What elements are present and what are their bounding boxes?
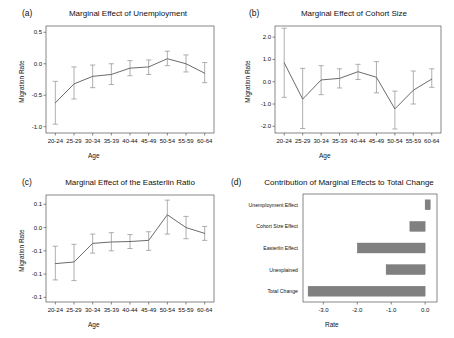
svg-text:Cohort Size Effect: Cohort Size Effect <box>256 223 298 229</box>
svg-text:2.0: 2.0 <box>263 34 272 40</box>
svg-text:Total Change: Total Change <box>267 288 298 294</box>
svg-text:50-54: 50-54 <box>160 307 176 313</box>
panel-d-plot: -3.0-2.0-1.00.0Unemployment EffectCohort… <box>227 169 454 338</box>
svg-text:50-54: 50-54 <box>160 138 176 144</box>
svg-text:25-29: 25-29 <box>295 138 311 144</box>
svg-text:-3.0: -3.0 <box>318 307 329 313</box>
panel-d: (d) Contribution of Marginal Effects to … <box>227 169 454 338</box>
svg-text:0.0: 0.0 <box>421 307 430 313</box>
panel-b-plot: 2.01.00.0-1.0-2.020-2425-2930-3435-3940-… <box>227 0 454 169</box>
svg-text:30-34: 30-34 <box>85 138 101 144</box>
svg-text:35-39: 35-39 <box>104 307 120 313</box>
svg-text:35-39: 35-39 <box>332 138 348 144</box>
svg-text:40-44: 40-44 <box>350 138 366 144</box>
svg-text:45-49: 45-49 <box>141 138 157 144</box>
svg-text:60-64: 60-64 <box>197 138 213 144</box>
svg-text:25-29: 25-29 <box>66 138 82 144</box>
svg-text:0.0: 0.0 <box>34 61 43 67</box>
svg-text:-0.5: -0.5 <box>32 92 43 98</box>
svg-text:20-24: 20-24 <box>48 307 64 313</box>
svg-text:-0.1: -0.1 <box>32 248 43 254</box>
figure-root: (a) Marginal Effect of Unemployment Migr… <box>0 0 454 338</box>
panel-c-plot: 0.10.0-0.1-0.1-0.120-2425-2930-3435-3940… <box>0 169 227 338</box>
svg-text:-1.0: -1.0 <box>386 307 397 313</box>
svg-text:0.1: 0.1 <box>34 201 43 207</box>
svg-text:40-44: 40-44 <box>122 307 138 313</box>
svg-text:0.0: 0.0 <box>263 79 272 85</box>
svg-text:Easterlin Effect: Easterlin Effect <box>263 245 298 251</box>
svg-text:45-49: 45-49 <box>141 307 157 313</box>
svg-text:0.5: 0.5 <box>34 29 43 35</box>
svg-text:45-49: 45-49 <box>369 138 385 144</box>
panel-a-plot: 0.50.0-0.5-1.020-2425-2930-3435-3940-444… <box>0 0 227 169</box>
panel-b: (b) Marginal Effect of Cohort Size Migra… <box>227 0 454 169</box>
svg-text:25-29: 25-29 <box>66 307 82 313</box>
svg-text:55-59: 55-59 <box>178 138 194 144</box>
svg-text:30-34: 30-34 <box>85 307 101 313</box>
svg-text:20-24: 20-24 <box>48 138 64 144</box>
svg-text:1.0: 1.0 <box>263 56 272 62</box>
svg-text:30-34: 30-34 <box>313 138 329 144</box>
svg-text:-0.1: -0.1 <box>32 294 43 300</box>
svg-text:0.0: 0.0 <box>34 225 43 231</box>
svg-text:-0.1: -0.1 <box>32 271 43 277</box>
svg-text:-1.0: -1.0 <box>32 124 43 130</box>
svg-text:35-39: 35-39 <box>104 138 120 144</box>
panel-a: (a) Marginal Effect of Unemployment Migr… <box>0 0 227 169</box>
svg-text:60-64: 60-64 <box>197 307 213 313</box>
panel-c: (c) Marginal Effect of the Easterlin Rat… <box>0 169 227 338</box>
svg-text:40-44: 40-44 <box>122 138 138 144</box>
svg-text:-1.0: -1.0 <box>261 101 272 107</box>
svg-text:50-54: 50-54 <box>387 138 403 144</box>
svg-text:Unexplained: Unexplained <box>269 267 298 273</box>
svg-text:Unemployment Effect: Unemployment Effect <box>249 202 299 208</box>
svg-text:55-59: 55-59 <box>178 307 194 313</box>
svg-text:-2.0: -2.0 <box>261 123 272 129</box>
svg-text:20-24: 20-24 <box>277 138 293 144</box>
svg-text:-2.0: -2.0 <box>352 307 363 313</box>
svg-text:55-59: 55-59 <box>406 138 422 144</box>
svg-text:60-64: 60-64 <box>424 138 440 144</box>
